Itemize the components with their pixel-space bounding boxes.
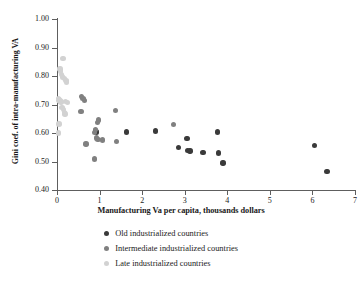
x-axis-tick	[312, 191, 313, 195]
legend-marker-icon	[104, 231, 109, 236]
data-point	[78, 109, 83, 114]
y-axis-tick-label: 0.40	[19, 186, 49, 194]
x-axis-tick-label: 2	[132, 196, 152, 205]
x-axis-tick-label: 4	[217, 196, 237, 205]
data-point	[83, 141, 88, 146]
data-point	[184, 136, 189, 141]
x-axis-tick-label: 5	[260, 196, 280, 205]
y-axis-tick-label: 0.50	[19, 158, 49, 166]
data-point	[215, 129, 220, 134]
data-point	[65, 100, 70, 105]
scatter-chart-figure: Gini coef. of intra-manufacturing VA 0.4…	[0, 0, 362, 282]
data-point	[100, 137, 105, 142]
legend-item[interactable]: Old industrialized countries	[104, 226, 354, 241]
x-axis-tick	[355, 191, 356, 195]
x-axis-tick	[57, 191, 58, 195]
legend-item[interactable]: Late industrialized countries	[104, 256, 354, 271]
x-axis-tick-label: 6	[302, 196, 322, 205]
chart-legend: Old industrialized countriesIntermediate…	[104, 226, 354, 271]
data-point	[60, 56, 65, 61]
data-point	[153, 128, 158, 133]
x-axis-tick-label: 0	[47, 196, 67, 205]
legend-label: Old industrialized countries	[115, 229, 208, 238]
legend-label: Intermediate industrialized countries	[115, 244, 238, 253]
y-axis-tick-label: 0.70	[19, 101, 49, 109]
data-point	[187, 148, 192, 153]
data-point	[216, 150, 221, 155]
data-point	[324, 169, 329, 174]
data-point	[95, 120, 100, 125]
data-point	[312, 143, 317, 148]
legend-marker-icon	[104, 261, 109, 266]
x-axis-line	[57, 190, 356, 191]
x-axis-tick-label: 7	[345, 196, 362, 205]
legend-item[interactable]: Intermediate industrialized countries	[104, 241, 354, 256]
data-point	[82, 98, 87, 103]
x-axis-tick	[100, 191, 101, 195]
y-axis-tick-label: 1.00	[19, 15, 49, 23]
data-point	[64, 79, 69, 84]
data-point	[62, 111, 67, 116]
data-point	[113, 108, 118, 113]
data-point	[171, 122, 176, 127]
data-point	[56, 121, 61, 126]
x-axis-tick	[270, 191, 271, 195]
plot-area	[57, 19, 355, 190]
x-axis-tick	[185, 191, 186, 195]
data-point	[92, 156, 97, 161]
data-point	[114, 139, 119, 144]
data-point	[56, 130, 61, 135]
legend-marker-icon	[104, 246, 109, 251]
x-axis-tick	[142, 191, 143, 195]
x-axis-tick	[227, 191, 228, 195]
data-point	[220, 160, 225, 165]
x-axis-tick-label: 1	[90, 196, 110, 205]
y-axis-tick-label: 0.90	[19, 44, 49, 52]
data-point	[124, 129, 129, 134]
x-axis-tick-label: 3	[175, 196, 195, 205]
y-axis-tick-label: 0.80	[19, 72, 49, 80]
y-axis-tick-label: 0.60	[19, 129, 49, 137]
legend-label: Late industrialized countries	[115, 259, 210, 268]
data-point	[200, 150, 205, 155]
x-axis-title: Manufacturing Va per capita, thousands d…	[0, 206, 362, 215]
data-point	[176, 145, 181, 150]
